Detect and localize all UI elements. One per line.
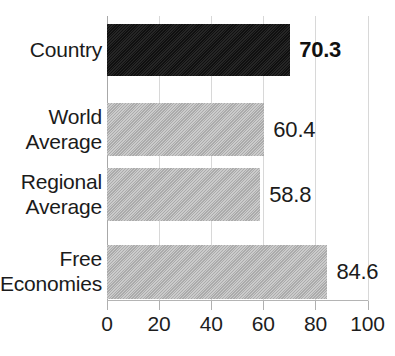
chart-title-clipped [0,0,395,9]
x-tick-60 [263,301,264,310]
value-label-1: 70.3 [299,37,341,63]
category-label-4: Free Economies [0,246,102,296]
x-tick-label-100: 100 [350,312,384,336]
value-label-4: 84.6 [336,259,378,285]
value-label-2: 60.4 [273,117,315,143]
x-tick-100 [368,301,369,310]
bar-2 [107,103,264,156]
bar-1 [107,24,290,76]
x-tick-20 [159,301,160,310]
x-tick-80 [315,301,316,310]
bar-4 [107,245,327,299]
bar-chart: 020406080100Country70.3World Average60.4… [0,0,395,356]
x-tick-label-60: 60 [252,312,275,336]
x-tick-label-80: 80 [304,312,327,336]
category-label-2: World Average [26,104,102,154]
x-tick-label-0: 0 [101,312,112,336]
x-tick-0 [107,301,108,310]
x-axis-line [107,300,368,301]
x-tick-label-20: 20 [148,312,171,336]
category-label-3: Regional Average [21,169,102,219]
x-tick-label-40: 40 [200,312,223,336]
x-tick-40 [211,301,212,310]
value-label-3: 58.8 [269,182,311,208]
bar-3 [107,168,260,221]
category-label-1: Country [30,37,102,62]
